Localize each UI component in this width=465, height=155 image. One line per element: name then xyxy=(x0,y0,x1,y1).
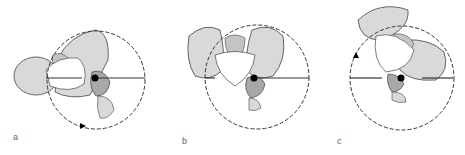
pelvis-diagram-a xyxy=(0,0,155,155)
panel-c: c xyxy=(310,0,465,155)
panel-b: b xyxy=(155,0,310,155)
panel-label: c xyxy=(337,136,342,146)
panel-label: b xyxy=(182,136,187,146)
panel-label: a xyxy=(13,132,18,142)
pelvis-diagram-c xyxy=(310,0,465,155)
panel-a: a xyxy=(0,0,155,155)
pelvis-diagram-b xyxy=(155,0,310,155)
